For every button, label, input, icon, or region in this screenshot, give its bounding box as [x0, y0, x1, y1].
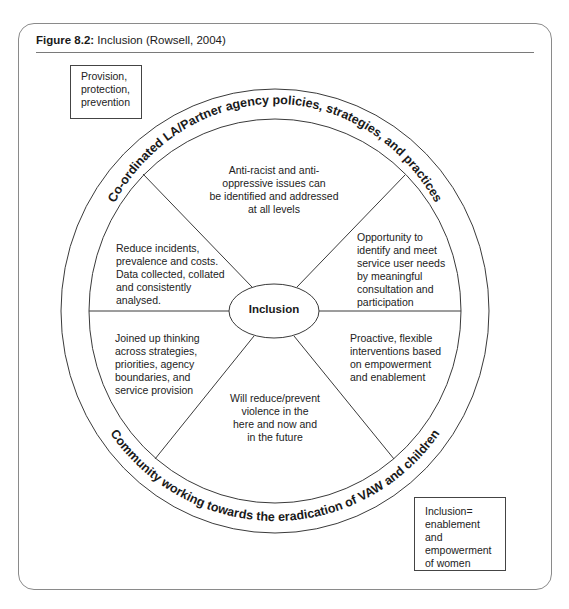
text-line: violence in the	[200, 405, 350, 418]
inclusion-definition-box: Inclusion= enablement and empowerment of…	[414, 497, 506, 571]
segment-bottom-text: Will reduce/prevent violence in the here…	[200, 392, 350, 444]
text-line: and	[425, 531, 505, 544]
text-line: consultation and	[357, 283, 445, 296]
text-line: prevention	[81, 96, 141, 109]
text-line: Inclusion=	[425, 505, 505, 518]
text-line: and consistently	[116, 281, 225, 294]
text-line: boundaries, and	[115, 371, 200, 384]
text-line: participation	[357, 296, 445, 309]
text-line: analysed.	[116, 294, 225, 307]
text-line: priorities, agency	[115, 358, 200, 371]
text-line: on empowerment	[350, 358, 441, 371]
text-line: by meaningful	[357, 270, 445, 283]
text-line: identify and meet	[357, 244, 445, 257]
text-line: of women	[425, 557, 505, 570]
text-line: be identified and addressed	[194, 190, 354, 203]
text-line: across strategies,	[115, 345, 200, 358]
segment-upper-right-text: Opportunity to identify and meet service…	[357, 231, 445, 309]
text-line: interventions based	[350, 345, 441, 358]
segment-lower-right-text: Proactive, flexible interventions based …	[350, 332, 441, 384]
text-line: Anti-racist and anti-	[194, 164, 354, 177]
text-line: service provision	[115, 384, 200, 397]
text-line: service user needs	[357, 257, 445, 270]
text-line: protection,	[81, 83, 141, 96]
text-line: here and now and	[200, 418, 350, 431]
text-line: Joined up thinking	[115, 332, 200, 345]
text-line: Reduce incidents,	[116, 242, 225, 255]
segment-lower-left-text: Joined up thinking across strategies, pr…	[115, 332, 200, 397]
text-line: Proactive, flexible	[350, 332, 441, 345]
text-line: and enablement	[350, 371, 441, 384]
text-line: Will reduce/prevent	[200, 392, 350, 405]
text-line: prevalence and costs.	[116, 255, 225, 268]
text-line: Provision,	[81, 70, 141, 83]
text-line: oppressive issues can	[194, 177, 354, 190]
text-line: Data collected, collated	[116, 268, 225, 281]
text-line: at all levels	[194, 203, 354, 216]
center-label: Inclusion	[229, 303, 319, 315]
text-line: enablement	[425, 518, 505, 531]
text-line: in the future	[200, 431, 350, 444]
segment-top-text: Anti-racist and anti- oppressive issues …	[194, 164, 354, 216]
provision-note-box: Provision, protection, prevention	[70, 65, 142, 119]
text-line: empowerment	[425, 544, 505, 557]
segment-upper-left-text: Reduce incidents, prevalence and costs. …	[116, 242, 225, 307]
text-line: Opportunity to	[357, 231, 445, 244]
